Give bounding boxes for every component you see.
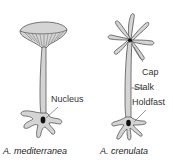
holdfast-label: Holdfast (132, 98, 165, 107)
acetabularia-diagram: Nucleus Cap Stalk Holdfast A. mediterran… (0, 0, 173, 164)
holdfast-pointer-line (134, 110, 146, 122)
organism-mediterranea (20, 22, 67, 138)
mediterranea-holdfast (21, 111, 62, 138)
nucleus-pointer-line (46, 107, 58, 118)
mediterranea-stalk (40, 47, 46, 114)
stalk-label: Stalk (134, 83, 154, 92)
crenulata-nucleus (126, 120, 131, 126)
crenulata-stalk (125, 42, 132, 118)
nucleus-label: Nucleus (51, 95, 84, 104)
caption-mediterranea: A. mediterranea (3, 147, 67, 156)
cap-label: Cap (142, 68, 159, 77)
caption-crenulata: A. crenulata (100, 147, 148, 156)
mediterranea-nucleus (41, 117, 46, 124)
mediterranea-cap (20, 22, 67, 48)
